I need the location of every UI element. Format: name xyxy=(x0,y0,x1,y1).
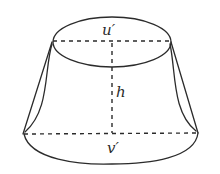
bottom-diameter-line xyxy=(24,133,198,134)
label-top-diameter: u′ xyxy=(102,21,116,39)
right-outer-side xyxy=(171,42,198,133)
label-height: h xyxy=(116,83,126,101)
left-inner-side xyxy=(25,44,52,132)
right-inner-side xyxy=(170,44,196,131)
left-outer-side xyxy=(23,42,52,134)
solid-diagram: u′ h v′ xyxy=(0,0,220,174)
label-bottom-diameter: v′ xyxy=(107,139,119,157)
